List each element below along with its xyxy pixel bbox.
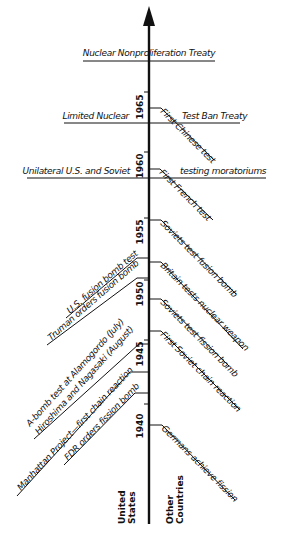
event-npt: Nuclear Nonproliferation Treaty [83, 48, 216, 58]
event-ltbt-left: Limited Nuclear [62, 111, 130, 121]
year-1960: 1960 [135, 153, 145, 178]
event-ltbt-right: Test Ban Treaty [182, 111, 248, 121]
event-germans-fission: Germans achieve fission [160, 423, 241, 504]
year-1955: 1955 [135, 219, 145, 244]
timeline-diagram: Nuclear Nonproliferation Treaty Limited … [0, 0, 281, 539]
event-moratorium-right: testing moratoriums [180, 166, 267, 176]
event-moratorium-left: Unilateral U.S. and Soviet [23, 166, 131, 176]
arrow-up-icon [143, 6, 155, 26]
year-1945: 1945 [135, 341, 145, 366]
header-other-line1: Other [165, 495, 175, 524]
header-us-line2: States [127, 491, 137, 524]
year-1950: 1950 [135, 281, 145, 306]
header-other-line2: Countries [175, 475, 185, 524]
header-us-line1: United [117, 490, 127, 524]
year-1940: 1940 [135, 413, 145, 438]
year-1965: 1965 [135, 94, 145, 119]
event-us-fusion-test: U.S. fusion bomb test [65, 248, 140, 315]
event-soviets-fusion: Soviets test fusion bomb [159, 218, 240, 299]
